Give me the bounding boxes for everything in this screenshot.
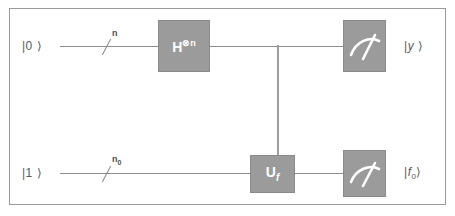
oracle-symbol: U [266,164,276,180]
wire-top-segment-input [60,46,158,47]
input-ket-bottom: |1 ⟩ [22,166,42,180]
oracle-gate-label: Uf [266,165,279,183]
hadamard-superscript: ⊗n [182,38,196,48]
output-ket-top: |y ⟩ [404,39,423,53]
oracle-subscript: f [276,172,279,183]
register-width-label-top: n [112,28,118,38]
input-ket-top: |0 ⟩ [22,39,42,53]
measure-top[interactable] [343,20,386,72]
wire-bottom-segment-input [60,173,250,174]
output-ket-top-suffix: ⟩ [414,39,423,53]
oracle-control-line [277,45,279,156]
hadamard-gate-label: H⊗n [172,39,196,54]
measure-bottom[interactable] [343,150,386,197]
quantum-circuit-figure: |0 ⟩ n H⊗n |y ⟩ |1 ⟩ n0 Uf [0,0,455,216]
wire-bottom-segment-middle [295,173,343,174]
oracle-gate[interactable]: Uf [250,155,295,193]
register-width-sub-bottom: 0 [118,159,122,166]
output-ket-bottom: |f0⟩ [404,165,422,181]
output-ket-bottom-suffix: ⟩ [416,165,422,179]
meter-icon [347,29,383,63]
meter-icon [347,158,383,190]
register-width-n-top: n [112,28,118,38]
register-width-label-bottom: n0 [112,154,121,166]
hadamard-gate[interactable]: H⊗n [158,20,210,72]
hadamard-symbol: H [172,38,182,54]
